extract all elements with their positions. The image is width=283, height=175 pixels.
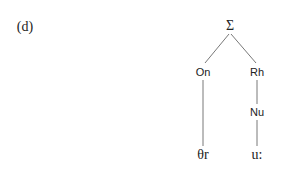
tree-branches: [0, 0, 283, 175]
rhyme-node: Rh: [250, 66, 264, 78]
onset-segment: θr: [197, 147, 208, 163]
syllable-node: Σ: [226, 18, 234, 34]
nucleus-segment: u:: [252, 147, 263, 163]
panel-label: (d): [17, 19, 33, 35]
branch-root-rhyme: [231, 34, 256, 63]
nucleus-node: Nu: [250, 106, 264, 118]
branch-root-onset: [205, 34, 229, 63]
onset-node: On: [196, 66, 211, 78]
